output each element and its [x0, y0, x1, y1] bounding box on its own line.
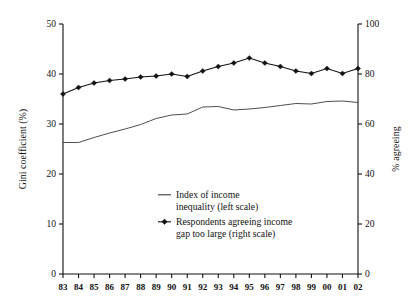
legend-label-income-inequality-line1: Index of income [176, 189, 239, 200]
right-axis-tick-label: 0 [365, 269, 370, 279]
data-point-marker [200, 68, 205, 73]
x-axis-tick-label: 01 [338, 282, 348, 292]
data-point-marker [154, 73, 159, 78]
right-axis-tick-label: 80 [365, 69, 375, 79]
data-point-marker [216, 64, 221, 69]
x-axis-tick-label: 99 [307, 282, 317, 292]
x-axis-tick-label: 88 [136, 282, 146, 292]
left-axis-tick-label: 30 [47, 119, 57, 129]
chart-figure: 0102030405002040608010083848586878889909… [0, 0, 418, 303]
x-axis-tick-label: 85 [90, 282, 100, 292]
right-axis-title: % agreeing [390, 126, 401, 171]
data-point-marker [60, 91, 65, 96]
left-axis-tick-label: 40 [47, 69, 57, 79]
legend-diamond-marker-icon [162, 219, 168, 225]
data-point-marker [91, 80, 96, 85]
data-point-marker [278, 64, 283, 69]
legend-label-income-inequality-line2: inequality (left scale) [176, 201, 258, 213]
x-axis-tick-label: 91 [183, 282, 193, 292]
x-axis-tick-label: 00 [322, 282, 332, 292]
legend-label-respondents-agreeing-line1: Respondents agreeing income [176, 216, 292, 227]
series-line-respondents-agreeing [63, 58, 358, 94]
x-axis-tick-label: 94 [229, 282, 239, 292]
left-axis-tick-label: 20 [47, 169, 57, 179]
data-point-marker [262, 60, 267, 65]
x-axis-tick-label: 02 [354, 282, 364, 292]
data-point-marker [231, 60, 236, 65]
x-axis-tick-label: 86 [105, 282, 115, 292]
right-axis-tick-label: 20 [365, 219, 375, 229]
data-point-marker [185, 74, 190, 79]
data-point-marker [169, 71, 174, 76]
left-axis-tick-label: 10 [47, 219, 57, 229]
legend-label-respondents-agreeing-line2: gap too large (right scale) [176, 228, 275, 240]
x-axis-tick-label: 98 [291, 282, 301, 292]
x-axis-tick-label: 96 [260, 282, 270, 292]
data-point-marker [324, 66, 329, 71]
right-axis-tick-label: 100 [365, 19, 380, 29]
data-point-marker [76, 85, 81, 90]
x-axis-tick-label: 89 [152, 282, 162, 292]
x-axis-tick-label: 93 [214, 282, 224, 292]
left-axis-tick-label: 50 [47, 19, 57, 29]
data-point-marker [123, 76, 128, 81]
data-point-marker [107, 78, 112, 83]
line-chart-canvas: 0102030405002040608010083848586878889909… [0, 0, 418, 303]
x-axis-tick-label: 90 [167, 282, 177, 292]
data-point-marker [309, 71, 314, 76]
data-point-marker [340, 71, 345, 76]
x-axis-tick-label: 84 [74, 282, 84, 292]
data-point-marker [247, 55, 252, 60]
left-axis-title: Gini coefficient (%) [17, 109, 29, 189]
right-axis-tick-label: 40 [365, 169, 375, 179]
x-axis-tick-label: 95 [245, 282, 255, 292]
data-point-marker [355, 66, 360, 71]
data-point-marker [293, 68, 298, 73]
series-line-income-inequality [63, 101, 358, 143]
x-axis-tick-label: 97 [276, 282, 286, 292]
data-point-marker [138, 74, 143, 79]
right-axis-tick-label: 60 [365, 119, 375, 129]
left-axis-tick-label: 0 [51, 269, 56, 279]
x-axis-tick-label: 87 [121, 282, 131, 292]
x-axis-tick-label: 83 [59, 282, 69, 292]
x-axis-tick-label: 92 [198, 282, 208, 292]
